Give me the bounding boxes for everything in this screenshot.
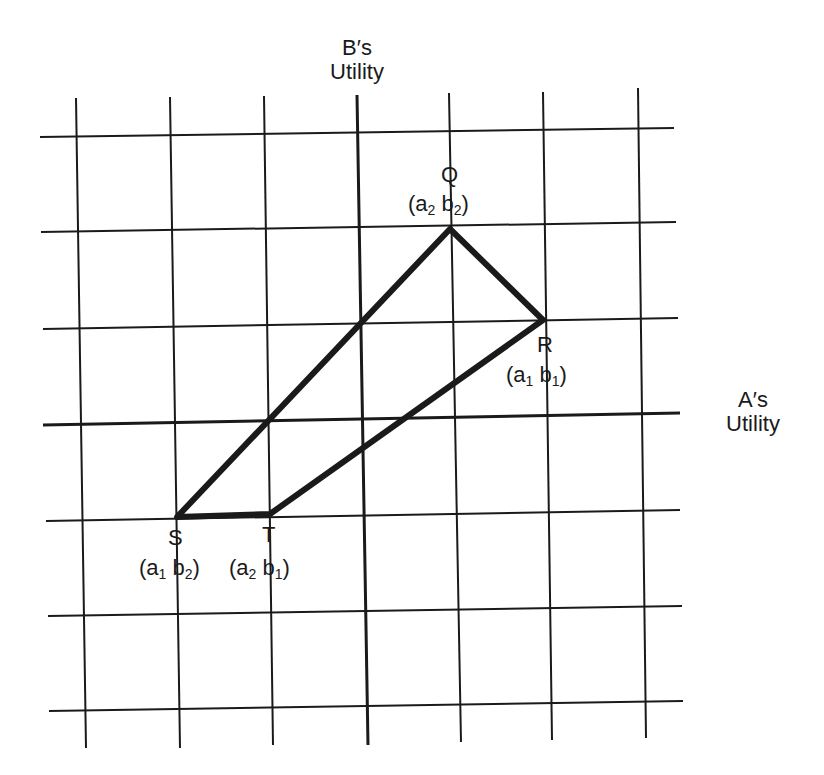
b-utility-axis-label: B′s Utility (312, 36, 402, 84)
point-s-coordinates: (a1 b2) (139, 556, 200, 586)
r-b: b (540, 362, 552, 387)
utility-diagram (0, 0, 824, 775)
point-t-label: T (262, 524, 275, 546)
q-a: a (415, 191, 427, 216)
t-b: b (263, 555, 275, 580)
r-b-sub: 1 (552, 373, 560, 389)
point-r-label: R (537, 334, 553, 356)
q-b: b (442, 191, 454, 216)
t-b-sub: 1 (275, 566, 283, 582)
s-a-sub: 1 (159, 566, 167, 582)
a-utility-label-line1: A′s (708, 388, 798, 412)
point-q-coordinates: (a2 b2) (408, 192, 469, 222)
point-t-coordinates: (a2 b1) (229, 556, 290, 586)
a-utility-axis-label: A′s Utility (708, 388, 798, 436)
s-b-sub: 2 (185, 566, 193, 582)
a-utility-label-line2: Utility (708, 412, 798, 436)
q-b-sub: 2 (454, 202, 462, 218)
point-s-label: S (168, 527, 183, 549)
b-utility-label-line1: B′s (312, 36, 402, 60)
b-utility-label-line2: Utility (312, 60, 402, 84)
q-a-sub: 2 (428, 202, 436, 218)
t-a: a (236, 555, 248, 580)
point-r-coordinates: (a1 b1) (506, 363, 567, 393)
s-b: b (173, 555, 185, 580)
t-a-sub: 2 (249, 566, 257, 582)
r-a: a (513, 362, 525, 387)
r-a-sub: 1 (526, 373, 534, 389)
s-a: a (146, 555, 158, 580)
point-q-label: Q (441, 164, 458, 186)
